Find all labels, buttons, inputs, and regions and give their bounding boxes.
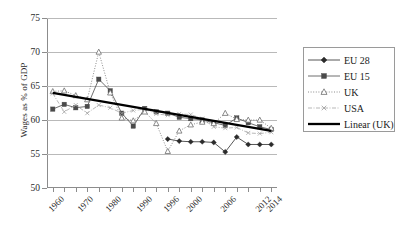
x-axis-tick xyxy=(122,188,123,192)
y-axis-tick-label: 65 xyxy=(31,81,41,91)
chart-legend: EU 28EU 15UKUSALinear (UK) xyxy=(303,47,395,132)
legend-item-eu-15[interactable]: EU 15 xyxy=(307,68,391,84)
x-axis-tick xyxy=(64,188,65,192)
y-axis-tick-label: 70 xyxy=(31,47,41,57)
x-axis-tick xyxy=(110,188,111,192)
plot-area: 505560657075 196019701980199019962000200… xyxy=(47,18,277,188)
legend-label: Linear (UK) xyxy=(344,119,394,130)
y-axis-tick-label: 75 xyxy=(31,13,41,23)
x-axis-tick xyxy=(168,188,169,192)
y-axis-tick-label: 50 xyxy=(31,183,41,193)
x-axis-tick-label: 1960 xyxy=(46,194,66,214)
y-axis-title: Wages as % of GDP xyxy=(19,35,29,165)
x-axis-tick-label: 1996 xyxy=(161,194,181,214)
x-axis-tick-label: 2000 xyxy=(184,194,204,214)
y-axis-tick xyxy=(42,188,47,189)
legend-item-uk[interactable]: UK xyxy=(307,84,391,100)
chart-figure: Wages as % of GDP 505560657075 196019701… xyxy=(0,0,401,231)
y-axis-tick-label: 60 xyxy=(31,115,41,125)
x-axis-tick xyxy=(156,188,157,192)
x-axis-tick xyxy=(179,188,180,192)
y-axis-tick-label: 55 xyxy=(31,149,41,159)
legend-symbol-small-x-icon xyxy=(307,101,341,115)
x-axis-tick-label: 2006 xyxy=(219,194,239,214)
x-axis-tick xyxy=(87,188,88,192)
legend-item-usa[interactable]: USA xyxy=(307,100,391,116)
x-axis-tick xyxy=(202,188,203,192)
series-eu-28 xyxy=(165,134,274,154)
legend-symbol-filled-square-icon xyxy=(307,69,341,83)
x-axis-tick xyxy=(99,188,100,192)
legend-label: EU 28 xyxy=(344,55,370,66)
x-axis-tick xyxy=(133,188,134,192)
legend-label: UK xyxy=(344,87,358,98)
legend-symbol-open-triangle-icon xyxy=(307,85,341,99)
x-axis-tick xyxy=(53,188,54,192)
x-axis-tick xyxy=(214,188,215,192)
x-axis-tick-label: 1990 xyxy=(134,194,154,214)
legend-symbol-filled-diamond-icon xyxy=(307,53,341,67)
legend-item-eu-28[interactable]: EU 28 xyxy=(307,52,391,68)
x-axis-tick xyxy=(237,188,238,192)
legend-symbol-none-icon xyxy=(307,117,341,131)
x-axis-tick xyxy=(191,188,192,192)
series-layer xyxy=(47,18,277,188)
x-axis-tick xyxy=(271,188,272,192)
x-axis-tick-label: 1970 xyxy=(75,194,95,214)
x-axis-tick xyxy=(76,188,77,192)
x-axis-tick xyxy=(225,188,226,192)
legend-item-linear-uk-[interactable]: Linear (UK) xyxy=(307,116,391,132)
legend-label: EU 15 xyxy=(344,71,370,82)
series-eu-15 xyxy=(51,77,274,132)
legend-label: USA xyxy=(344,103,364,114)
x-axis-tick xyxy=(145,188,146,192)
x-axis-tick-label: 1980 xyxy=(104,194,124,214)
x-axis-tick xyxy=(248,188,249,192)
x-axis-tick xyxy=(260,188,261,192)
series-uk xyxy=(50,49,274,153)
